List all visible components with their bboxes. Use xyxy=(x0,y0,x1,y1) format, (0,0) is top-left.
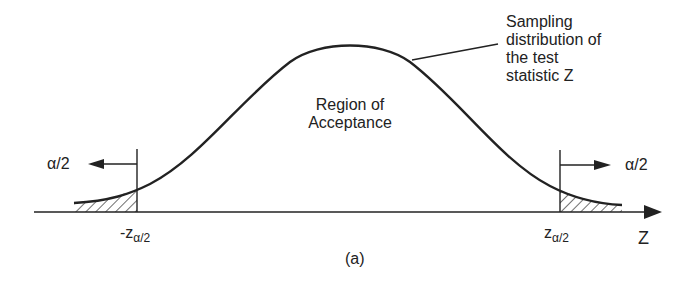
curve-label: Sampling distribution of the test statis… xyxy=(506,13,601,85)
left-alpha-label: α/2 xyxy=(47,155,70,173)
left-critical-value: -zα/2 xyxy=(120,224,150,243)
axis-arrowhead-icon xyxy=(644,205,662,219)
right-alpha-label: α/2 xyxy=(625,156,648,174)
curve-label-leader xyxy=(412,44,498,60)
axis-label: Z xyxy=(638,229,649,247)
right-arrow-icon xyxy=(594,160,611,170)
region-of-acceptance-label: Region of Acceptance xyxy=(295,96,405,132)
right-critical-value: zα/2 xyxy=(544,224,569,243)
normal-distribution-diagram: Sampling distribution of the test statis… xyxy=(0,0,693,292)
left-arrow-icon xyxy=(88,159,104,169)
figure-caption: (a) xyxy=(345,250,365,268)
